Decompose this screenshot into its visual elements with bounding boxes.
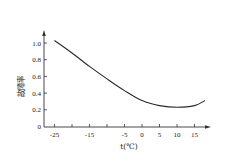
y-axis-ticks: 00.20.40.60.81.0 [32, 40, 47, 132]
y-tick-label: 0.8 [32, 56, 41, 64]
failure-rate-curve [55, 41, 206, 108]
y-tick-label: 0.4 [32, 90, 41, 98]
y-tick-label: 0 [38, 123, 42, 131]
x-tick-label: 15 [191, 131, 199, 139]
x-tick-label: -5 [122, 131, 128, 139]
y-tick-label: 0.2 [32, 106, 41, 114]
x-tick-label: 5 [158, 131, 162, 139]
axes [42, 30, 211, 129]
x-tick-label: -25 [50, 131, 60, 139]
x-axis-arrow-icon [205, 125, 211, 129]
y-tick-label: 1.0 [32, 40, 41, 48]
x-tick-label: -15 [85, 131, 95, 139]
x-tick-label: 10 [174, 131, 182, 139]
failure-rate-chart: 00.20.40.60.81.0 -25-15-5051015 故障率 t(℃) [0, 0, 226, 160]
x-axis-label: t(℃) [120, 142, 137, 151]
x-tick-label: 0 [140, 131, 144, 139]
y-axis-arrow-icon [42, 30, 46, 36]
y-tick-label: 0.6 [32, 73, 41, 81]
x-axis-ticks: -25-15-5051015 [50, 124, 199, 139]
y-axis-label: 故障率 [16, 75, 26, 97]
